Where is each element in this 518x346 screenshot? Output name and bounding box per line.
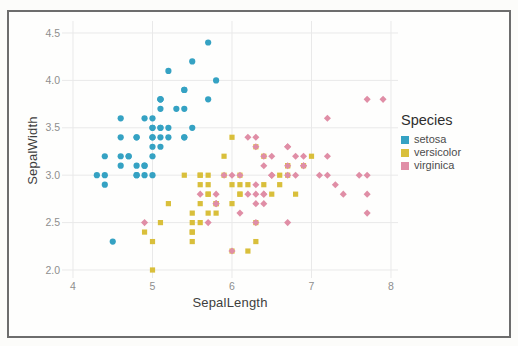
y-tick-label: 4.5 xyxy=(45,27,60,39)
data-point-versicolor xyxy=(277,173,282,178)
data-point-setosa xyxy=(94,172,100,178)
data-point-versicolor xyxy=(190,211,195,216)
x-tick-label: 8 xyxy=(388,280,394,292)
data-point-versicolor xyxy=(142,229,147,234)
data-point-versicolor xyxy=(190,239,195,244)
data-point-virginica xyxy=(141,219,148,226)
data-point-versicolor xyxy=(150,267,155,272)
data-point-virginica xyxy=(268,172,275,179)
data-point-virginica xyxy=(205,219,212,226)
data-point-setosa xyxy=(149,115,155,121)
legend-item-versicolor: versicolor xyxy=(401,148,461,157)
data-point-setosa xyxy=(149,134,155,140)
data-point-setosa xyxy=(102,153,108,159)
data-point-setosa xyxy=(118,163,124,169)
x-tick-label: 7 xyxy=(309,280,315,292)
data-point-setosa xyxy=(165,125,171,131)
data-point-setosa xyxy=(181,134,187,140)
y-tick-label: 3.5 xyxy=(45,121,60,133)
data-point-setosa xyxy=(134,163,140,169)
data-point-setosa xyxy=(110,238,116,244)
data-point-virginica xyxy=(244,191,251,198)
data-point-virginica xyxy=(260,162,267,169)
data-point-versicolor xyxy=(198,182,203,187)
data-point-virginica xyxy=(292,153,299,160)
data-point-setosa xyxy=(118,153,124,159)
data-point-versicolor xyxy=(206,211,211,216)
data-point-versicolor xyxy=(237,182,242,187)
data-point-setosa xyxy=(173,106,179,112)
y-axis-label: SepalWidth xyxy=(25,76,40,226)
data-point-virginica xyxy=(364,172,371,179)
data-point-versicolor xyxy=(269,192,274,197)
data-point-setosa xyxy=(134,172,140,178)
data-point-setosa xyxy=(181,87,187,93)
data-point-setosa xyxy=(205,96,211,102)
data-point-setosa xyxy=(102,172,108,178)
x-axis-label: SepalLength xyxy=(62,295,398,310)
legend-swatch-versicolor xyxy=(401,149,409,157)
data-point-versicolor xyxy=(150,239,155,244)
data-point-versicolor xyxy=(277,182,282,187)
y-tick-label: 3.0 xyxy=(45,169,60,181)
legend-item-virginica: virginica xyxy=(401,161,461,170)
data-point-virginica xyxy=(364,210,371,217)
data-point-setosa xyxy=(205,39,211,45)
data-point-virginica xyxy=(213,191,220,198)
legend-swatch-virginica xyxy=(401,162,409,170)
data-point-versicolor xyxy=(198,220,203,225)
data-point-versicolor xyxy=(190,220,195,225)
data-point-versicolor xyxy=(158,220,163,225)
data-point-setosa xyxy=(165,134,171,140)
data-point-setosa xyxy=(102,182,108,188)
data-point-setosa xyxy=(165,68,171,74)
data-point-versicolor xyxy=(237,192,242,197)
x-tick-label: 4 xyxy=(70,280,76,292)
data-point-versicolor xyxy=(182,173,187,178)
data-point-versicolor xyxy=(261,182,266,187)
data-point-setosa xyxy=(134,134,140,140)
data-point-versicolor xyxy=(206,192,211,197)
data-point-virginica xyxy=(340,191,347,198)
data-point-setosa xyxy=(157,96,163,102)
legend-items: setosaversicolorvirginica xyxy=(401,135,461,170)
data-point-setosa xyxy=(189,125,195,131)
data-point-versicolor xyxy=(229,201,234,206)
data-point-virginica xyxy=(364,191,371,198)
data-point-setosa xyxy=(141,163,147,169)
data-point-versicolor xyxy=(198,173,203,178)
data-point-versicolor xyxy=(198,201,203,206)
legend-title: Species xyxy=(401,112,461,128)
data-point-setosa xyxy=(189,58,195,64)
data-point-virginica xyxy=(252,200,259,207)
data-point-versicolor xyxy=(166,201,171,206)
data-point-setosa xyxy=(149,144,155,150)
data-point-setosa xyxy=(118,115,124,121)
data-point-versicolor xyxy=(229,135,234,140)
data-point-virginica xyxy=(364,96,371,103)
data-point-setosa xyxy=(141,172,147,178)
data-point-versicolor xyxy=(229,182,234,187)
data-point-virginica xyxy=(316,172,323,179)
legend-item-label: versicolor xyxy=(414,148,461,157)
data-point-setosa xyxy=(118,134,124,140)
data-point-virginica xyxy=(236,210,243,217)
legend-item-label: setosa xyxy=(414,135,446,144)
data-point-virginica xyxy=(197,191,204,198)
y-tick-label: 2.5 xyxy=(45,216,60,228)
data-point-virginica xyxy=(252,134,259,141)
data-point-virginica xyxy=(356,172,363,179)
x-tick-label: 6 xyxy=(229,280,235,292)
y-tick-label: 4.0 xyxy=(45,74,60,86)
data-point-virginica xyxy=(268,153,275,160)
legend-item-label: virginica xyxy=(414,161,454,170)
data-point-setosa xyxy=(157,106,163,112)
data-point-versicolor xyxy=(293,192,298,197)
data-point-setosa xyxy=(213,77,219,83)
data-point-virginica xyxy=(324,172,331,179)
data-point-setosa xyxy=(181,106,187,112)
data-point-virginica xyxy=(284,219,291,226)
data-point-virginica xyxy=(300,153,307,160)
data-point-virginica xyxy=(252,181,259,188)
data-point-setosa xyxy=(149,153,155,159)
